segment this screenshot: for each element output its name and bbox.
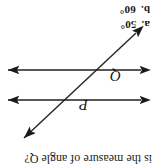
diagram-svg — [0, 22, 158, 146]
answer-choice-b-letter: b. — [141, 4, 150, 16]
answer-choice-b-value: 60° — [120, 4, 136, 16]
answer-choice-a[interactable]: a.50° — [0, 17, 150, 32]
question-stem: is the measure of angle Q? — [0, 151, 152, 166]
rotated-worksheet-page: is the measure of angle Q? — [0, 0, 158, 168]
answer-choice-a-value: 50° — [120, 19, 136, 31]
transversal-line — [24, 33, 136, 138]
answer-choice-a-letter: a. — [141, 19, 150, 31]
screenshot-root: is the measure of angle Q? — [0, 0, 158, 168]
answer-choice-b[interactable]: b.60° — [0, 2, 150, 17]
angle-label-p: P — [79, 96, 88, 113]
answer-choice-list: a.50° b.60° — [0, 2, 150, 32]
geometry-diagram: P Q — [0, 22, 158, 146]
angle-label-q: Q — [110, 67, 121, 84]
